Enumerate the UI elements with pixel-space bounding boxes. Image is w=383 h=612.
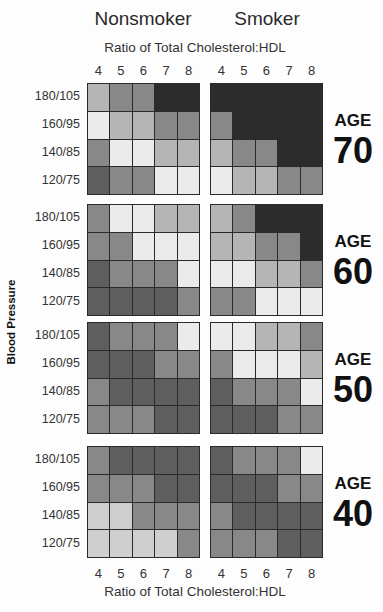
heatmap-cell — [233, 84, 254, 111]
x-axis-title-bottom: Ratio of Total Cholesterol:HDL — [65, 584, 325, 599]
heatmap-cell — [178, 112, 199, 139]
y-tick-label: 140/85 — [0, 384, 80, 398]
heatmap-cell — [211, 447, 232, 474]
heatmap-cell — [233, 140, 254, 167]
y-tick-label: 160/95 — [0, 238, 80, 252]
heatmap-cell — [301, 140, 322, 167]
x-tick-top: 4 — [210, 63, 233, 78]
heatmap-cell — [211, 406, 232, 433]
heatmap-cell — [211, 233, 232, 260]
heatmap-cell — [155, 379, 176, 406]
heatmap-cell — [133, 447, 154, 474]
heatmap-cell — [301, 233, 322, 260]
heatmap-grid-age-40-smoker — [210, 446, 323, 558]
x-tick-top: 5 — [233, 63, 256, 78]
x-tick-bottom: 7 — [278, 566, 301, 581]
heatmap-cell — [133, 205, 154, 232]
heatmap-cell — [256, 530, 277, 557]
heatmap-cell — [256, 447, 277, 474]
heatmap-cell — [278, 205, 299, 232]
heatmap-cell — [110, 323, 131, 350]
x-tick-top: 6 — [255, 63, 278, 78]
heatmap-cell — [256, 261, 277, 288]
heatmap-cell — [178, 379, 199, 406]
heatmap-cell — [211, 379, 232, 406]
heatmap-cell — [233, 503, 254, 530]
age-label-word: AGE — [323, 474, 383, 494]
heatmap-cell — [178, 167, 199, 194]
y-tick-label: 160/95 — [0, 356, 80, 370]
heatmap-cell — [155, 261, 176, 288]
heatmap-cell — [233, 351, 254, 378]
heatmap-cell — [155, 84, 176, 111]
age-label-word: AGE — [323, 111, 383, 131]
heatmap-cell — [233, 323, 254, 350]
heatmap-cell — [301, 503, 322, 530]
x-tick-top: 5 — [110, 63, 133, 78]
heatmap-cell — [301, 475, 322, 502]
heatmap-cell — [133, 503, 154, 530]
heatmap-cell — [178, 530, 199, 557]
heatmap-cell — [110, 447, 131, 474]
heatmap-cell — [110, 475, 131, 502]
heatmap-cell — [178, 233, 199, 260]
x-tick-bottom: 6 — [255, 566, 278, 581]
x-tick-bottom: 8 — [177, 566, 200, 581]
heatmap-grid-age-60-smoker — [210, 204, 323, 316]
heatmap-cell — [233, 530, 254, 557]
heatmap-cell — [133, 84, 154, 111]
heatmap-cell — [110, 84, 131, 111]
heatmap-cell — [155, 447, 176, 474]
heatmap-cell — [155, 288, 176, 315]
heatmap-cell — [155, 205, 176, 232]
heatmap-cell — [278, 406, 299, 433]
x-tick-top: 8 — [300, 63, 323, 78]
x-tick-bottom: 5 — [110, 566, 133, 581]
heatmap-cell — [178, 351, 199, 378]
heatmap-cell — [278, 503, 299, 530]
y-tick-label: 120/75 — [0, 173, 80, 187]
heatmap-grid-age-50-nonsmoker — [87, 322, 200, 434]
heatmap-cell — [301, 167, 322, 194]
heatmap-cell — [278, 351, 299, 378]
heatmap-cell — [155, 351, 176, 378]
heatmap-cell — [278, 233, 299, 260]
heatmap-cell — [233, 288, 254, 315]
heatmap-cell — [88, 167, 109, 194]
y-tick-label: 140/85 — [0, 145, 80, 159]
y-tick-label: 140/85 — [0, 508, 80, 522]
heatmap-cell — [88, 233, 109, 260]
heatmap-cell — [133, 288, 154, 315]
heatmap-cell — [278, 323, 299, 350]
heatmap-cell — [278, 288, 299, 315]
heatmap-grid-age-40-nonsmoker — [87, 446, 200, 558]
y-tick-label: 180/105 — [0, 89, 80, 103]
heatmap-cell — [211, 288, 232, 315]
heatmap-cell — [256, 140, 277, 167]
heatmap-cell — [155, 530, 176, 557]
heatmap-cell — [110, 406, 131, 433]
heatmap-cell — [233, 167, 254, 194]
nonsmoker-heading: Nonsmoker — [83, 8, 203, 30]
heatmap-cell — [233, 233, 254, 260]
y-tick-label: 140/85 — [0, 266, 80, 280]
heatmap-cell — [178, 323, 199, 350]
heatmap-cell — [110, 112, 131, 139]
heatmap-cell — [278, 475, 299, 502]
x-tick-bottom: 4 — [87, 566, 110, 581]
y-tick-label: 120/75 — [0, 536, 80, 550]
heatmap-cell — [211, 205, 232, 232]
heatmap-cell — [233, 406, 254, 433]
age-label-word: AGE — [323, 232, 383, 252]
heatmap-cell — [110, 167, 131, 194]
heatmap-cell — [301, 351, 322, 378]
heatmap-cell — [256, 323, 277, 350]
heatmap-cell — [133, 530, 154, 557]
heatmap-cell — [233, 379, 254, 406]
y-tick-label: 160/95 — [0, 480, 80, 494]
heatmap-cell — [211, 530, 232, 557]
x-tick-top: 6 — [132, 63, 155, 78]
y-tick-label: 180/105 — [0, 328, 80, 342]
heatmap-cell — [88, 261, 109, 288]
heatmap-cell — [110, 379, 131, 406]
